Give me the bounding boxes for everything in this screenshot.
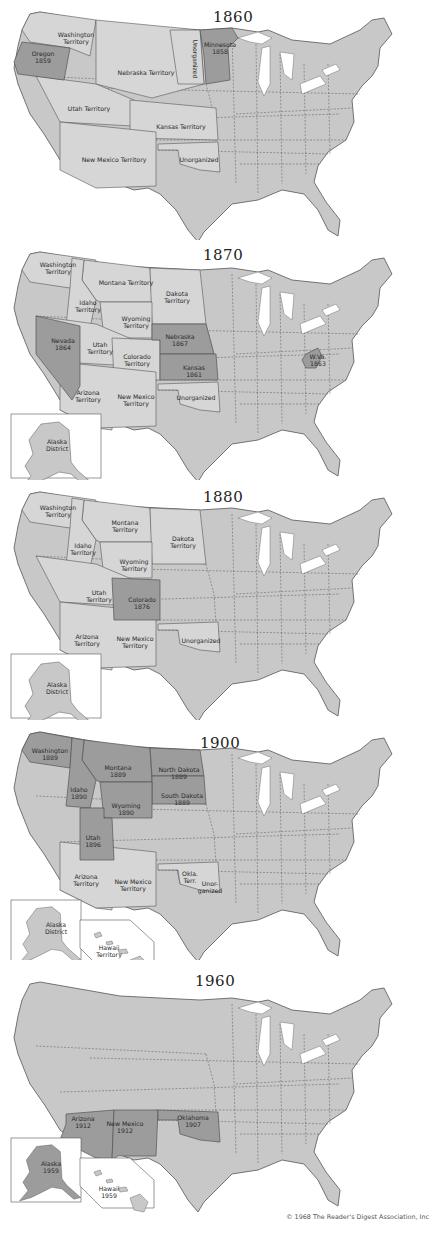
map-year-title: 1870 (203, 246, 243, 264)
map-panel-1870: 1870Washington TerritoryMontana Territor… (0, 240, 433, 480)
region-label: Kansas Territory (156, 123, 206, 130)
region-label: Minnesota 1858 (204, 41, 236, 55)
region-label: Dakota Territory (170, 535, 196, 549)
region-label: Montana 1889 (105, 764, 132, 778)
inset-label-alaska: Alaska District (46, 681, 68, 695)
region-label: Utah Territory (68, 105, 110, 112)
us-map-svg (0, 970, 433, 1233)
region-label: Alaska 1959 (41, 1160, 61, 1174)
region-label: Nevada 1864 (51, 337, 75, 351)
region-label: Unorganized (176, 394, 215, 401)
region-label: Montana Territory (99, 279, 154, 286)
region-label: Oklahoma 1907 (177, 1114, 209, 1128)
region-label: New Mexico Territory (82, 156, 147, 163)
region-label: Washington Territory (58, 31, 94, 45)
region-label: Washington Territory (40, 504, 76, 518)
inset-label-hawaii: Hawaii Territory (96, 944, 122, 958)
region-label: W.Va. 1863 (310, 353, 327, 367)
region-label: Oregon 1859 (32, 50, 55, 64)
region-label: Utah Territory (86, 589, 112, 603)
region-label: Arizona Territory (74, 633, 100, 647)
region-label: New Mexico 1912 (106, 1120, 143, 1134)
region-label: Idaho 1890 (70, 786, 87, 800)
region-label: North Dakota 1889 (158, 766, 199, 780)
region-label: Arizona 1912 (71, 1115, 94, 1129)
region-label: Hawaii 1959 (99, 1185, 120, 1199)
region-label: Washington Territory (40, 261, 76, 275)
region-label: Nebraska Territory (118, 69, 175, 76)
inset-label-alaska: Alaska District (45, 921, 67, 935)
map-panel-1900: 1900Washington 1889Montana 1889North Dak… (0, 720, 433, 960)
region-label: Colorado 1876 (128, 596, 156, 610)
copyright-notice: © 1968 The Reader's Digest Association, … (286, 1213, 429, 1221)
region-label: Unor- ganized (198, 880, 222, 894)
region-label: Unorganized (192, 39, 199, 78)
region-label: Idaho Territory (75, 299, 101, 313)
region-label: Kansas 1861 (183, 364, 205, 378)
region-label: Arizona Territory (75, 389, 101, 403)
map-panel-1860: 1860Washington TerritoryOregon 1859Nebra… (0, 0, 433, 240)
region-label: Wyoming Territory (119, 558, 148, 572)
region-label: Utah 1896 (85, 834, 101, 848)
region-label: Wyoming 1890 (111, 802, 140, 816)
map-year-title: 1880 (203, 488, 243, 506)
region-label: Washington 1889 (32, 747, 68, 761)
region-label: Unorganized (181, 637, 220, 644)
state-newmexico (112, 1110, 158, 1160)
region-label: Unorganized (179, 156, 218, 163)
map-year-title: 1860 (213, 8, 253, 26)
region-label: Wyoming Territory (121, 315, 150, 329)
region-label: Okla. Terr. (182, 870, 198, 884)
region-label: New Mexico Territory (116, 635, 153, 649)
region-label: Colorado Territory (123, 353, 151, 367)
region-label: New Mexico Territory (117, 393, 154, 407)
map-panel-1960: 1960Arizona 1912New Mexico 1912Oklahoma … (0, 970, 433, 1233)
region-label: Idaho Territory (70, 542, 96, 556)
region-label: Utah Territory (87, 341, 113, 355)
region-label: Montana Territory (112, 519, 139, 533)
map-year-title: 1960 (195, 972, 235, 990)
region-label: Dakota Territory (164, 290, 190, 304)
region-label: Arizona Territory (73, 873, 99, 887)
region-label: Nebraska 1867 (165, 333, 194, 347)
map-year-title: 1900 (200, 734, 240, 752)
map-panel-1880: 1880Washington TerritoryMontana Territor… (0, 480, 433, 720)
region-label: New Mexico Territory (114, 878, 151, 892)
inset-label-alaska: Alaska District (46, 438, 68, 452)
region-label: South Dakota 1889 (161, 792, 203, 806)
